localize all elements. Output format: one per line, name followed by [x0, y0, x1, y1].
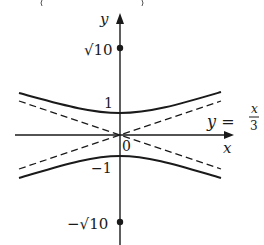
x-axis-label: x	[223, 139, 232, 157]
sqrt10-point	[117, 45, 123, 51]
asymptote-label-num: x	[251, 102, 258, 116]
y-axis-arrow-icon	[116, 13, 124, 24]
tick-label-sqrt10: √10	[84, 41, 113, 59]
asymptote-label-lhs: y =	[206, 112, 235, 131]
x-axis-arrow-icon	[224, 131, 234, 139]
tick-label-neg-sqrt10: −√10	[67, 215, 108, 233]
asymptote-label-den: 3	[250, 119, 258, 133]
tick-label-neg1: −1	[91, 160, 112, 176]
cropped-paren-fragment	[41, 0, 42, 6]
neg-sqrt10-point	[117, 219, 123, 225]
hyperbola-figure: y x 0 √10 1 −1 −√10 y = x 3	[0, 0, 264, 245]
tick-label-1: 1	[104, 95, 113, 111]
cropped-paren-fragment	[142, 0, 143, 6]
origin-label: 0	[122, 138, 131, 154]
y-axis-label: y	[99, 10, 109, 28]
